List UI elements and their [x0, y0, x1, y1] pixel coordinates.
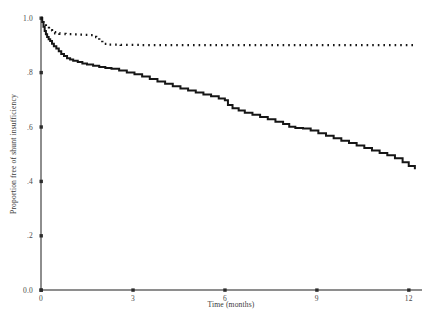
x-axis-title: Time (months) — [207, 300, 254, 309]
y-axis-title: Proportion free of shunt insufficiency — [9, 94, 18, 214]
y-tick-label: 0.0 — [23, 286, 33, 295]
survival-chart: 0.0.2.4.6.81.0036912 Time (months) Propo… — [0, 0, 437, 321]
chart-tick-labels: 0.0.2.4.6.81.0036912 — [23, 14, 413, 303]
chart-tick-marks — [39, 17, 410, 292]
y-tick-label: .2 — [27, 231, 33, 240]
chart-page: 0.0.2.4.6.81.0036912 Time (months) Propo… — [0, 0, 437, 321]
x-tick-label: 9 — [315, 294, 319, 303]
series-solid-curve — [41, 18, 415, 169]
y-tick-label: .4 — [27, 177, 33, 186]
y-tick-label: .8 — [27, 68, 33, 77]
x-tick-label: 0 — [39, 294, 43, 303]
y-tick-label: 1.0 — [23, 14, 33, 23]
series-dotted-curve — [41, 18, 415, 45]
x-tick-label: 3 — [131, 294, 135, 303]
chart-series — [41, 18, 415, 169]
y-tick-label: .6 — [27, 123, 33, 132]
chart-axes — [41, 18, 422, 290]
x-tick-label: 12 — [405, 294, 413, 303]
